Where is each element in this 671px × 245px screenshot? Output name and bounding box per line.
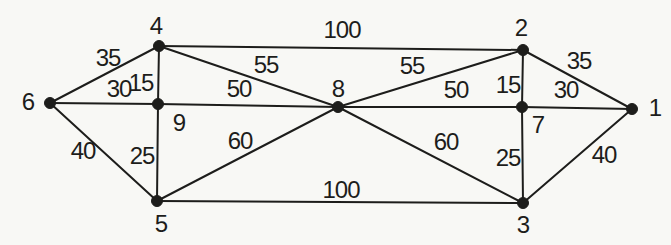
edge-weight-2-7: 15	[496, 71, 521, 98]
edge-weight-8-3: 60	[434, 128, 459, 155]
graph-node-8	[333, 102, 344, 113]
graph-node-2	[518, 45, 529, 56]
graph-edge-4-2	[159, 46, 523, 50]
edge-weight-3-1: 40	[592, 141, 617, 168]
edge-weight-6-4: 35	[96, 44, 121, 71]
graph-edge-6-9	[50, 103, 158, 104]
graph-node-3	[518, 198, 529, 209]
graph-node-4	[154, 41, 165, 52]
edge-weight-7-1: 30	[554, 76, 579, 103]
node-label-8: 8	[332, 75, 345, 102]
graph-edge-9-5	[157, 104, 158, 201]
graph-edge-7-3	[522, 107, 523, 203]
edge-weight-4-2: 100	[323, 16, 361, 43]
node-label-6: 6	[22, 88, 35, 115]
edge-weight-2-1: 35	[567, 47, 592, 74]
edge-weight-7-3: 25	[496, 144, 521, 171]
edge-weight-9-8: 50	[227, 75, 252, 102]
graph-node-1	[627, 104, 638, 115]
graph-edge-9-8	[158, 104, 338, 107]
node-label-5: 5	[155, 210, 168, 237]
node-label-2: 2	[515, 14, 528, 41]
graph-edge-7-1	[522, 107, 632, 109]
edge-weight-5-8: 60	[228, 127, 253, 154]
graph-node-7	[517, 102, 528, 113]
edge-weight-9-5: 25	[130, 142, 155, 169]
graph-node-5	[152, 196, 163, 207]
edge-weight-8-7: 50	[444, 76, 469, 103]
edge-weight-8-2: 55	[400, 52, 425, 79]
edge-weight-5-3: 100	[322, 176, 360, 203]
graph-edge-2-7	[522, 50, 523, 107]
edge-weight-6-5: 40	[71, 137, 96, 164]
node-label-9: 9	[173, 109, 186, 136]
node-label-1: 1	[649, 94, 662, 121]
node-label-7: 7	[532, 111, 545, 138]
graph-figure: 3530401555100502560100555060153530254064…	[0, 0, 671, 245]
edge-weight-4-9: 15	[129, 69, 154, 96]
graph-node-6	[45, 98, 56, 109]
node-label-3: 3	[517, 211, 530, 238]
graph-node-9	[153, 99, 164, 110]
edge-weight-4-8: 55	[254, 51, 279, 78]
graph-canvas: 3530401555100502560100555060153530254064…	[0, 0, 671, 245]
node-label-4: 4	[150, 12, 163, 39]
graph-edge-4-9	[158, 46, 159, 104]
